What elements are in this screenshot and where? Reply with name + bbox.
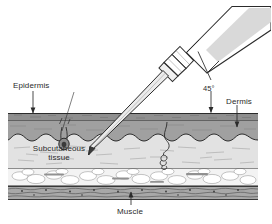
epidermis-layer [8, 114, 258, 122]
syringe-barrel [187, 7, 272, 74]
label-subcutaneous-line1: Subcutaneous [33, 144, 85, 153]
label-epidermis: Epidermis [13, 81, 49, 90]
label-dermis: Dermis [226, 97, 252, 106]
label-subcutaneous-line2: tissue [28, 153, 90, 162]
injection-diagram [0, 0, 271, 224]
muscle-layer [8, 186, 258, 200]
leader-epidermis [31, 91, 36, 114]
label-subcutaneous-tissue: Subcutaneous tissue [28, 144, 90, 162]
label-injection-angle: 45° [203, 84, 215, 93]
label-muscle: Muscle [117, 207, 143, 216]
